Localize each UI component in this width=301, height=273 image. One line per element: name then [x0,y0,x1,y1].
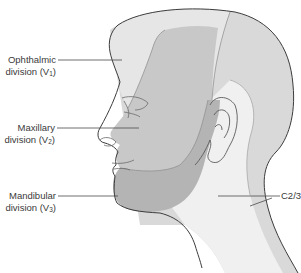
maxillary-label-line1: Maxillary [4,122,55,134]
label-prefix: division (V [4,134,48,145]
label-suffix: ) [52,134,55,145]
ophthalmic-label-line1: Ophthalmic [5,54,56,66]
mandibular-label: Mandibular division (V3) [5,190,56,216]
maxillary-label: Maxillary division (V2) [4,122,55,148]
label-prefix: division (V [5,202,49,213]
label-suffix: ) [53,66,56,77]
head-dermatome-diagram: Ophthalmic division (V1) Maxillary divis… [0,0,301,273]
c23-label: C2/3 [281,190,301,202]
label-prefix: division (V [5,66,49,77]
mandibular-label-line2: division (V3) [5,202,56,216]
mandibular-label-line1: Mandibular [5,190,56,202]
maxillary-label-line2: division (V2) [4,134,55,148]
c23-label-text: C2/3 [281,190,301,202]
ophthalmic-label: Ophthalmic division (V1) [5,54,56,80]
label-suffix: ) [53,202,56,213]
ophthalmic-label-line2: division (V1) [5,66,56,80]
